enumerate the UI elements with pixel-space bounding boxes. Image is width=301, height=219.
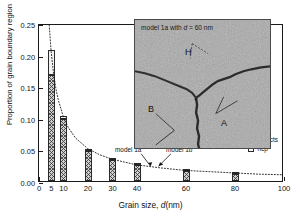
y-tick-label: 0.00: [21, 179, 35, 188]
plot-area: 0.000.050.100.150.200.25 051020304060801…: [38, 24, 283, 182]
x-tick-label: 60: [182, 184, 190, 193]
figure-panel: Proportion of grain boundary region Grai…: [0, 0, 301, 219]
y-tick-label: 0.25: [21, 21, 35, 30]
inset-title-prefix: model 1a with: [141, 24, 184, 31]
x-tick-label: 5: [49, 184, 53, 193]
x-tick-mark: [284, 177, 285, 181]
y-tick-label: 0.05: [21, 147, 35, 156]
x-axis-label-units: (nm): [165, 200, 182, 210]
x-tick-label: 20: [84, 184, 92, 193]
inset-title-suffix: = 60 nm: [187, 24, 213, 31]
inset-micrograph: model 1a with d = 60 nm H B A: [134, 19, 271, 149]
grain-label-h: H: [185, 47, 192, 57]
y-tick-label: 0.10: [21, 115, 35, 124]
x-axis-label: Grain size, d(nm): [0, 200, 301, 210]
x-tick-label: 10: [59, 184, 67, 193]
x-tick-label: 100: [278, 184, 291, 193]
grain-label-b: B: [148, 104, 154, 114]
y-tick-label: 0.15: [21, 84, 35, 93]
y-axis-label: Proportion of grain boundary region: [5, 0, 14, 150]
x-tick-label: 30: [108, 184, 116, 193]
x-tick-label: 80: [231, 184, 239, 193]
x-tick-label: 0: [37, 184, 41, 193]
x-tick-label: 40: [133, 184, 141, 193]
grain-label-a: A: [221, 118, 227, 128]
inset-microstructure-image: [135, 20, 270, 148]
y-tick-label: 0.20: [21, 52, 35, 61]
x-axis-label-text: Grain size,: [118, 200, 160, 210]
inset-title: model 1a with d = 60 nm: [141, 24, 213, 31]
